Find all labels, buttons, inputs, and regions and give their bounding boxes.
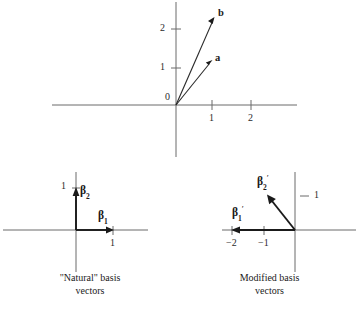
beta-1-prime-mark: ′ [242, 204, 244, 214]
modified-basis-caption-line-1: Modified basis [180, 272, 359, 285]
top-plot-canvas [0, 0, 359, 160]
x-tick-label-2: 2 [248, 113, 253, 123]
natural-basis-caption: "Natural" basis vectors [0, 272, 180, 297]
beta-1-label: β1 [98, 210, 108, 224]
x-tick-label-neg2: −2 [226, 238, 237, 248]
origin-label: 0 [165, 92, 170, 102]
modified-basis-caption: Modified basis vectors [180, 272, 359, 297]
vector-a-shaft [176, 64, 210, 106]
beta-2-label: β2 [80, 185, 90, 199]
beta-1-prime-subscript: 1 [238, 214, 242, 223]
beta-2-prime-shaft [272, 201, 295, 230]
vector-b-label: b [218, 8, 224, 19]
x-tick-label-1: 1 [110, 238, 115, 248]
beta-1-prime-label: β1′ [232, 207, 244, 221]
figure-root: 0 1 2 1 2 a b β1 β2 1 1 [0, 0, 359, 311]
y-tick-label-1: 1 [61, 181, 66, 191]
vector-b-arrowhead [208, 17, 215, 24]
x-tick-label-1: 1 [209, 113, 214, 123]
natural-basis-caption-line-2: vectors [0, 285, 180, 298]
modified-basis-plot: β1′ β2′ −2 −1 1 Modified basis vectors [180, 160, 359, 311]
beta-2-prime-label: β2′ [257, 176, 269, 190]
modified-basis-caption-line-2: vectors [180, 285, 359, 298]
y-tick-label-1: 1 [314, 190, 319, 200]
x-tick-label-neg1: −1 [258, 238, 269, 248]
beta-2-prime-subscript: 2 [263, 183, 267, 192]
beta-2-prime-mark: ′ [267, 173, 269, 183]
y-tick-label-2: 2 [160, 23, 165, 33]
y-tick-label-1: 1 [160, 62, 165, 72]
natural-basis-plot: β1 β2 1 1 "Natural" basis vectors [0, 160, 180, 311]
natural-basis-caption-line-1: "Natural" basis [0, 272, 180, 285]
top-vector-plot: 0 1 2 1 2 a b [0, 0, 359, 160]
beta-1-subscript: 1 [104, 217, 108, 226]
vector-a-label: a [215, 53, 220, 64]
beta-2-subscript: 2 [86, 192, 90, 201]
vector-a-arrowhead [206, 60, 213, 65]
